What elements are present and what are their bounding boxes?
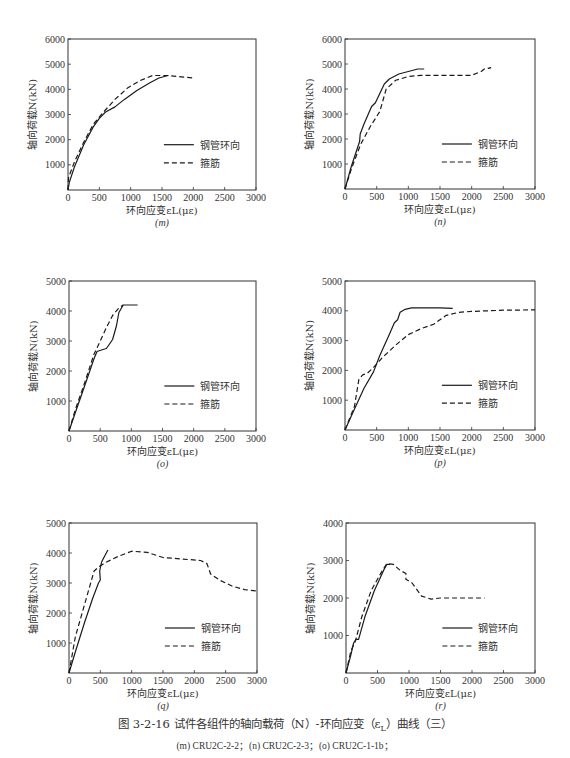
x-tick-label: 3000 bbox=[525, 675, 545, 686]
series-stirrup bbox=[69, 305, 123, 431]
x-tick-label: 1000 bbox=[398, 432, 418, 443]
legend-dashed-label: 箍筋 bbox=[200, 398, 220, 410]
x-tick-label: 0 bbox=[344, 675, 349, 686]
chart-n: 0500100015002000250030001000200030004000… bbox=[303, 34, 545, 229]
y-axis-label: 轴向荷载N(kN) bbox=[303, 320, 315, 391]
series-stirrup bbox=[68, 76, 193, 191]
y-axis-label: 轴向荷载N(kN) bbox=[27, 320, 39, 391]
y-tick-label: 2000 bbox=[323, 593, 343, 604]
x-axis-label: 环向应变εL(με) bbox=[127, 445, 198, 457]
y-tick-label: 1000 bbox=[45, 159, 65, 170]
x-tick-label: 1000 bbox=[399, 675, 419, 686]
x-tick-label: 0 bbox=[67, 675, 72, 686]
chart-m: 0500100015002000250030001000200030004000… bbox=[26, 34, 266, 230]
caption-text: 图 3-2-16 试件各组件的轴向载荷（N）-环向应变（ε bbox=[118, 717, 380, 731]
x-axis-label: 环向应变εL(με) bbox=[126, 204, 197, 216]
x-axis-label: 环向应变εL(με) bbox=[127, 687, 198, 699]
figure-charts: 0500100015002000250030001000200030004000… bbox=[0, 0, 570, 758]
y-tick-label: 5000 bbox=[322, 59, 342, 70]
y-tick-label: 2000 bbox=[46, 366, 66, 377]
y-axis-label: 轴向荷载N(kN) bbox=[27, 562, 39, 633]
figure-caption: 图 3-2-16 试件各组件的轴向载荷（N）-环向应变（εL）曲线（三） bbox=[0, 715, 570, 733]
legend-dashed-label: 箍筋 bbox=[478, 397, 498, 409]
y-tick-label: 4000 bbox=[323, 518, 343, 529]
series-steel-tube-hoop bbox=[69, 305, 138, 431]
x-tick-label: 2500 bbox=[216, 675, 236, 686]
plot-frame bbox=[345, 39, 535, 189]
chart-o: 0500100015002000250030001000200030004000… bbox=[27, 276, 266, 471]
x-tick-label: 1000 bbox=[121, 433, 141, 444]
x-tick-label: 500 bbox=[93, 433, 108, 444]
x-tick-label: 2500 bbox=[215, 433, 235, 444]
x-tick-label: 2000 bbox=[462, 191, 482, 202]
y-tick-label: 6000 bbox=[322, 34, 342, 45]
subplot-label: (o) bbox=[157, 458, 169, 470]
legend-dashed-label: 箍筋 bbox=[200, 157, 220, 169]
legend-solid-label: 钢管环向 bbox=[478, 379, 518, 391]
y-tick-label: 5000 bbox=[322, 276, 342, 287]
y-tick-label: 2000 bbox=[322, 365, 342, 376]
x-tick-label: 1000 bbox=[398, 191, 418, 202]
x-tick-label: 3000 bbox=[246, 192, 266, 203]
series-steel-tube-hoop bbox=[68, 76, 168, 191]
x-tick-label: 2500 bbox=[493, 191, 513, 202]
series-stirrup bbox=[345, 310, 535, 430]
legend-solid-label: 钢管环向 bbox=[200, 380, 240, 392]
y-tick-label: 1000 bbox=[46, 396, 66, 407]
y-tick-label: 1000 bbox=[323, 630, 343, 641]
y-tick-label: 3000 bbox=[46, 578, 66, 589]
series-stirrup bbox=[345, 68, 491, 189]
x-tick-label: 2000 bbox=[462, 432, 482, 443]
series-stirrup bbox=[69, 551, 257, 673]
x-tick-label: 0 bbox=[66, 192, 71, 203]
legend-solid-label: 钢管环向 bbox=[201, 622, 241, 634]
y-tick-label: 3000 bbox=[322, 335, 342, 346]
x-axis-label: 环向应变εL(με) bbox=[405, 687, 476, 699]
x-tick-label: 0 bbox=[343, 432, 348, 443]
legend-solid-label: 钢管环向 bbox=[200, 139, 240, 151]
x-tick-label: 3000 bbox=[247, 675, 267, 686]
y-tick-label: 2000 bbox=[45, 134, 65, 145]
y-tick-label: 3000 bbox=[45, 109, 65, 120]
y-tick-label: 4000 bbox=[322, 305, 342, 316]
plot-frame bbox=[68, 39, 256, 190]
x-tick-label: 1500 bbox=[153, 433, 173, 444]
x-tick-label: 2000 bbox=[184, 675, 204, 686]
x-tick-label: 1500 bbox=[431, 675, 451, 686]
chart-r: 0500100015002000250030001000200030004000… bbox=[304, 518, 545, 713]
y-tick-label: 3000 bbox=[323, 555, 343, 566]
plot-frame bbox=[69, 281, 256, 431]
y-tick-label: 1000 bbox=[322, 395, 342, 406]
subplot-label: (r) bbox=[435, 700, 446, 712]
legend-dashed-label: 箍筋 bbox=[478, 640, 498, 652]
y-axis-label: 轴向荷载N(kN) bbox=[26, 79, 38, 150]
x-tick-label: 1000 bbox=[121, 192, 141, 203]
y-tick-label: 5000 bbox=[45, 59, 65, 70]
y-axis-label: 轴向荷载N(kN) bbox=[304, 562, 316, 633]
series-steel-tube-hoop bbox=[345, 69, 424, 189]
y-tick-label: 4000 bbox=[322, 84, 342, 95]
y-tick-label: 6000 bbox=[45, 34, 65, 45]
x-tick-label: 500 bbox=[369, 191, 384, 202]
y-tick-label: 4000 bbox=[45, 84, 65, 95]
x-tick-label: 3000 bbox=[525, 191, 545, 202]
y-tick-label: 3000 bbox=[322, 109, 342, 120]
y-tick-label: 4000 bbox=[46, 548, 66, 559]
x-tick-label: 0 bbox=[67, 433, 72, 444]
x-tick-label: 2000 bbox=[184, 433, 204, 444]
x-tick-label: 3000 bbox=[246, 433, 266, 444]
x-tick-label: 2500 bbox=[493, 432, 513, 443]
charts-canvas: 0500100015002000250030001000200030004000… bbox=[0, 0, 570, 758]
legend-dashed-label: 箍筋 bbox=[478, 156, 498, 168]
subplot-label: (n) bbox=[434, 216, 446, 228]
x-tick-label: 2000 bbox=[462, 675, 482, 686]
figure-subcaption: (m) CRU2C-2-2；(n) CRU2C-2-3；(o) CRU2C-1-… bbox=[0, 738, 570, 752]
x-tick-label: 2500 bbox=[494, 675, 514, 686]
x-tick-label: 1000 bbox=[122, 675, 142, 686]
plot-frame bbox=[345, 281, 535, 430]
chart-q: 0500100015002000250030001000200030004000… bbox=[27, 518, 267, 713]
plot-frame bbox=[69, 523, 257, 673]
x-tick-label: 0 bbox=[343, 191, 348, 202]
caption-end: ）曲线（三） bbox=[386, 717, 452, 731]
x-tick-label: 1500 bbox=[430, 432, 450, 443]
